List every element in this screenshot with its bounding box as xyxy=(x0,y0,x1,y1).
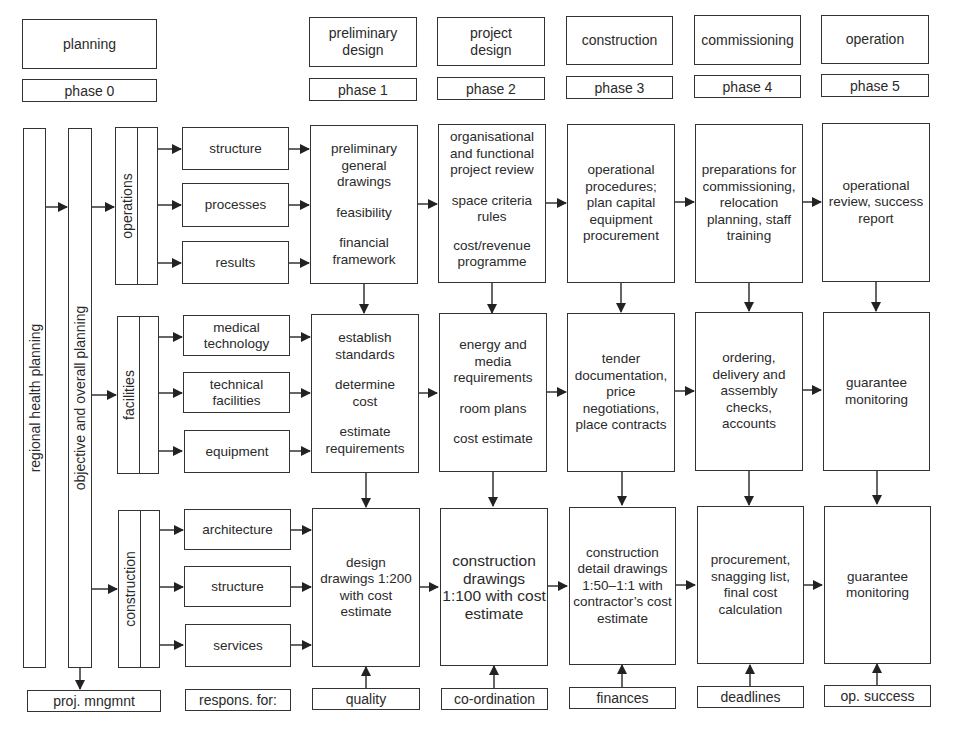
phase-4: phase 4 xyxy=(694,75,801,98)
phase-label: phase 0 xyxy=(65,83,115,99)
cell-construction-phase2: construction drawings 1:100 with cost es… xyxy=(440,508,548,666)
cell-text: cost estimate xyxy=(453,431,533,448)
item-label: architecture xyxy=(202,522,273,538)
cell-facilities-phase5: guarantee monitoring xyxy=(823,312,930,471)
cell-text: preparations for commissioning, relocati… xyxy=(697,162,801,245)
stage-label: project design xyxy=(461,25,521,59)
item-label: results xyxy=(216,255,256,271)
phase-1: phase 1 xyxy=(309,78,417,101)
group-label: facilities xyxy=(121,370,137,420)
objective-overall-planning-label: objective and overall planning xyxy=(72,306,88,490)
cell-construction-phase1: design drawings 1:200 with cost estimate xyxy=(312,508,420,667)
stage-planning: planning xyxy=(22,19,157,69)
cell-text: room plans xyxy=(460,401,527,418)
footer-label: finances xyxy=(596,690,648,706)
cell-text: determine cost xyxy=(325,377,405,410)
cell-text: cost/revenue programme xyxy=(445,238,539,271)
cell-facilities-phase3: tender documentation, price negotiations… xyxy=(567,313,675,472)
stage-label: construction xyxy=(582,32,657,49)
cell-operations-phase2: organisational and functional project re… xyxy=(438,124,546,283)
item-label: processes xyxy=(205,197,267,213)
footer-label: deadlines xyxy=(721,689,781,705)
footer-label: quality xyxy=(346,691,386,707)
item-label: medical technology xyxy=(197,320,277,352)
cell-facilities-phase1: establish standards determine cost estim… xyxy=(311,314,419,473)
cell-text: guarantee monitoring xyxy=(838,569,918,602)
item-structure: structure xyxy=(184,566,291,607)
stage-preliminary-design: preliminary design xyxy=(309,17,417,67)
cell-text: space criteria rules xyxy=(445,193,539,226)
group-label: construction xyxy=(122,551,138,626)
phase-label: phase 3 xyxy=(595,80,645,96)
respons-co-ordination: co-ordination xyxy=(441,688,548,710)
phase-0: phase 0 xyxy=(22,79,157,102)
stage-project-design: project design xyxy=(437,17,545,66)
footer-label: co-ordination xyxy=(454,691,535,707)
regional-health-planning-label: regional health planning xyxy=(27,324,43,473)
cell-text: design drawings 1:200 with cost estimate xyxy=(318,555,414,621)
group-facilities: facilities xyxy=(117,316,159,474)
stage-label: preliminary design xyxy=(323,25,403,59)
cell-construction-phase5: guarantee monitoring xyxy=(824,506,931,664)
phase-3: phase 3 xyxy=(566,76,673,99)
cell-facilities-phase4: ordering, delivery and assembly checks, … xyxy=(695,312,803,471)
respons-quality: quality xyxy=(312,688,420,710)
group-operations: operations xyxy=(115,127,158,285)
stage-operation: operation xyxy=(821,15,929,64)
respons-deadlines: deadlines xyxy=(697,686,804,708)
item-structure: structure xyxy=(182,127,289,170)
item-label: equipment xyxy=(205,444,268,460)
item-results: results xyxy=(182,241,289,284)
item-architecture: architecture xyxy=(184,509,291,550)
cell-text: ordering, delivery and assembly checks, … xyxy=(704,350,794,433)
item-label: structure xyxy=(209,141,262,157)
cell-text: construction drawings 1:100 with cost es… xyxy=(442,552,546,622)
cell-text: construction detail drawings 1:50–1:1 wi… xyxy=(573,545,673,628)
phase-label: phase 4 xyxy=(723,79,773,95)
item-services: services xyxy=(185,624,291,667)
item-processes: processes xyxy=(182,183,289,227)
cell-text: operational procedures; plan capital equ… xyxy=(573,162,669,245)
phase-label: phase 2 xyxy=(466,81,516,97)
footer-label: respons. for: xyxy=(199,692,277,708)
regional-health-planning-bar: regional health planning xyxy=(23,128,46,668)
cell-operations-phase3: operational procedures; plan capital equ… xyxy=(567,124,675,283)
cell-text: feasibility xyxy=(336,205,392,222)
item-equipment: equipment xyxy=(184,430,290,473)
phase-2: phase 2 xyxy=(437,77,545,100)
stage-construction: construction xyxy=(566,16,673,65)
item-medical-technology: medical technology xyxy=(183,315,290,356)
cell-text: financial framework xyxy=(324,235,404,268)
item-technical-facilities: technical facilities xyxy=(183,372,290,413)
stage-commissioning: commissioning xyxy=(694,15,801,65)
cell-text: tender documentation, price negotiations… xyxy=(569,351,673,434)
group-label: operations xyxy=(119,173,135,238)
cell-construction-phase4: procurement, snagging list, final cost c… xyxy=(697,506,804,664)
item-label: structure xyxy=(211,579,264,595)
objective-overall-planning-bar: objective and overall planning xyxy=(68,128,92,668)
stage-label: commissioning xyxy=(701,32,794,49)
footer-label: proj. mngmnt xyxy=(53,693,135,709)
item-label: services xyxy=(213,638,263,654)
footer-label: op. success xyxy=(841,688,915,704)
cell-operations-phase1: preliminary general drawings feasibility… xyxy=(310,125,418,284)
phase-label: phase 5 xyxy=(850,78,900,94)
respons-op-success: op. success xyxy=(824,685,931,707)
cell-text: operational review, success report xyxy=(824,178,928,228)
cell-text: organisational and functional project re… xyxy=(441,129,543,179)
phase-5: phase 5 xyxy=(821,74,929,97)
stage-label: planning xyxy=(63,36,116,53)
cell-construction-phase3: construction detail drawings 1:50–1:1 wi… xyxy=(569,507,676,665)
respons-finances: finances xyxy=(569,687,676,709)
cell-text: establish standards xyxy=(325,330,405,363)
cell-text: energy and media requirements xyxy=(445,337,541,387)
item-label: technical facilities xyxy=(207,377,267,409)
respons-for-box: respons. for: xyxy=(185,689,291,711)
stage-label: operation xyxy=(846,31,904,48)
cell-operations-phase5: operational review, success report xyxy=(822,123,930,282)
cell-text: preliminary general drawings xyxy=(324,141,404,191)
phase-label: phase 1 xyxy=(338,82,388,98)
proj-mngmnt-box: proj. mngmnt xyxy=(27,690,161,712)
cell-text: estimate requirements xyxy=(315,424,415,457)
cell-text: procurement, snagging list, final cost c… xyxy=(701,552,801,618)
